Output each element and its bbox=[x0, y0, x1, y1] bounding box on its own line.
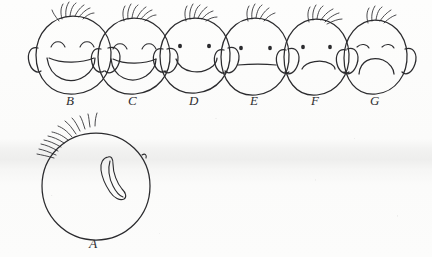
eye-left-icon bbox=[357, 44, 369, 48]
head-outline bbox=[98, 18, 170, 94]
face-e: E bbox=[214, 4, 299, 108]
face-b: B bbox=[28, 2, 120, 108]
ear-right-icon bbox=[225, 47, 239, 72]
face-label-e: E bbox=[249, 93, 258, 108]
eye-right-icon bbox=[80, 42, 94, 47]
head-outline bbox=[36, 16, 111, 94]
head-outline bbox=[221, 18, 289, 95]
nose-shape bbox=[101, 157, 126, 200]
face-g: G bbox=[336, 6, 416, 108]
ear-left-icon bbox=[28, 48, 41, 72]
eye-left-icon bbox=[239, 46, 243, 50]
eye-right-icon bbox=[142, 44, 156, 49]
face-label-c: C bbox=[128, 93, 137, 108]
jaw-notch-mark bbox=[142, 154, 146, 158]
head-outline bbox=[42, 133, 150, 240]
eye-right-icon bbox=[382, 44, 394, 48]
head-outline bbox=[284, 19, 349, 95]
mouth-inner-line bbox=[49, 58, 94, 62]
face-a: A bbox=[37, 113, 150, 251]
face-label-d: D bbox=[188, 93, 199, 108]
eye-left-icon bbox=[178, 44, 182, 49]
eye-right-icon bbox=[207, 44, 211, 49]
face-d: D bbox=[153, 4, 239, 108]
scanned-paper-sheet: B C bbox=[0, 0, 432, 257]
ear-right-icon bbox=[344, 48, 358, 73]
ear-right-icon bbox=[164, 48, 178, 72]
mouth-smile bbox=[176, 58, 217, 72]
ear-right-icon bbox=[105, 47, 120, 72]
head-outline bbox=[344, 20, 407, 94]
eye-left-icon bbox=[51, 42, 65, 47]
hair-tuft-icon bbox=[308, 5, 342, 24]
face-label-f: F bbox=[310, 93, 320, 108]
mouth-neutral-line bbox=[238, 64, 276, 65]
mouth-smile bbox=[111, 59, 156, 80]
mouth-deep-frown bbox=[359, 59, 394, 74]
eye-left-icon bbox=[301, 45, 305, 49]
eye-right-icon bbox=[268, 46, 272, 50]
mouth-frown bbox=[302, 61, 335, 69]
hair-strokes-icon bbox=[37, 113, 97, 158]
face-c: C bbox=[91, 4, 178, 108]
face-label-b: B bbox=[66, 93, 74, 108]
face-label-a: A bbox=[88, 236, 98, 251]
face-label-g: G bbox=[370, 93, 380, 108]
eye-right-icon bbox=[328, 45, 332, 49]
ear-right-icon bbox=[402, 48, 416, 73]
mouth-smile bbox=[47, 58, 95, 80]
face-scale-drawing: B C bbox=[0, 0, 432, 257]
